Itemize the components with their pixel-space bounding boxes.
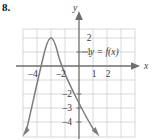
x-tick-label-neg4: –4 <box>27 69 38 79</box>
y-tick-label-neg3: –3 <box>62 103 73 113</box>
y-axis <box>75 11 83 139</box>
y-tick-label-neg4: –4 <box>62 117 73 127</box>
y-tick-label-2: 2 <box>87 33 92 43</box>
y-tick-label-neg2: –2 <box>62 89 73 99</box>
x-tick-label-2: 2 <box>106 69 111 79</box>
curve-label: y = f(x) <box>89 47 119 58</box>
graph-canvas: y x –4 –2 1 2 2 1 –2 –3 –4 y = f(x) <box>0 0 157 140</box>
y-axis-label: y <box>72 3 78 13</box>
figure-container: 8. <box>0 0 157 140</box>
x-axis-label: x <box>143 61 149 71</box>
x-tick-label-neg2: –2 <box>55 69 66 79</box>
x-tick-label-1: 1 <box>92 69 97 79</box>
